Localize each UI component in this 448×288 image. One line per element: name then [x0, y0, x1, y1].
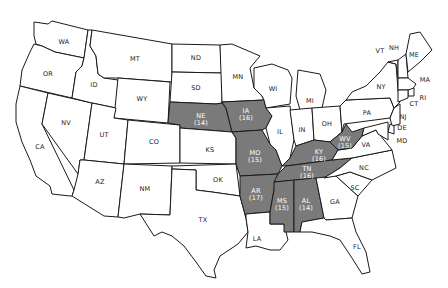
- state-code: NY: [376, 83, 385, 91]
- state-label-or: OR: [43, 71, 53, 78]
- state-label-mt: MT: [130, 56, 140, 63]
- state-label-md: MD: [396, 138, 407, 145]
- state-label-me: ME: [409, 52, 419, 59]
- state-code: MI: [306, 97, 314, 105]
- state-label-sc: SC: [350, 185, 359, 192]
- state-code: GA: [330, 198, 340, 206]
- state-label-tx: TX: [199, 217, 208, 224]
- state-label-id: ID: [90, 82, 97, 89]
- state-code: VA: [362, 141, 371, 149]
- state-label-nm: NM: [140, 186, 151, 193]
- state-code: NM: [140, 185, 151, 193]
- state-label-va: VA: [362, 142, 371, 149]
- state-code: NC: [359, 164, 369, 172]
- state-label-ia: IA(16): [239, 108, 253, 122]
- state-label-sd: SD: [191, 85, 201, 92]
- state-code: IN: [298, 126, 305, 134]
- state-az: [72, 160, 124, 217]
- state-label-ca: CA: [35, 144, 44, 151]
- state-label-ut: UT: [99, 132, 108, 139]
- state-code: SC: [350, 184, 359, 192]
- state-value: (17): [249, 195, 263, 202]
- state-code: AZ: [95, 178, 104, 186]
- state-value: (16): [300, 173, 314, 180]
- state-code: MT: [130, 55, 140, 63]
- state-code: CA: [35, 143, 44, 151]
- state-label-ms: MS(15): [275, 198, 289, 212]
- state-value: (16): [312, 156, 326, 163]
- state-code: DE: [397, 124, 407, 132]
- state-label-wa: WA: [59, 39, 70, 46]
- state-code: KS: [206, 146, 215, 154]
- state-code: PA: [363, 109, 371, 117]
- state-code: ME: [409, 51, 419, 59]
- state-code: OH: [322, 120, 332, 128]
- state-label-oh: OH: [322, 121, 332, 128]
- state-code: MA: [420, 76, 430, 84]
- state-code: RI: [420, 94, 427, 102]
- state-ri: [408, 88, 414, 96]
- state-code: ND: [191, 54, 201, 62]
- state-code: TX: [199, 216, 208, 224]
- state-label-nc: NC: [359, 165, 369, 172]
- state-label-wy: WY: [137, 96, 148, 103]
- state-label-co: CO: [149, 139, 159, 146]
- state-label-ri: RI: [420, 95, 427, 102]
- state-label-il: IL: [277, 129, 283, 136]
- state-code: NJ: [399, 113, 406, 121]
- state-label-nh: NH: [389, 45, 399, 52]
- state-code: WA: [59, 38, 70, 46]
- state-code: LA: [253, 235, 262, 243]
- state-code: NH: [389, 44, 399, 52]
- state-label-de: DE: [397, 125, 407, 132]
- state-label-la: LA: [253, 236, 262, 243]
- state-label-nd: ND: [191, 55, 201, 62]
- state-code: WI: [269, 85, 278, 93]
- state-label-al: AL(14): [299, 198, 313, 212]
- state-label-ks: KS: [206, 147, 215, 154]
- state-code: WY: [137, 95, 148, 103]
- state-value: (14): [194, 120, 208, 127]
- state-label-in: IN: [298, 127, 305, 134]
- state-label-mn: MN: [233, 74, 244, 81]
- state-label-nv: NV: [61, 120, 71, 127]
- state-label-mo: MO(15): [248, 150, 262, 164]
- state-label-ct: CT: [410, 101, 419, 108]
- state-code: IL: [277, 128, 283, 136]
- state-code: CT: [410, 100, 419, 108]
- state-code: SD: [191, 84, 201, 92]
- state-value: (16): [239, 115, 253, 122]
- state-label-ar: AR(17): [249, 188, 263, 202]
- state-code: OR: [43, 70, 53, 78]
- state-value: (15): [338, 143, 352, 150]
- state-code: MD: [396, 137, 407, 145]
- state-code: OK: [213, 176, 223, 184]
- state-label-az: AZ: [95, 179, 104, 186]
- state-label-ne: NE(14): [194, 113, 208, 127]
- state-label-fl: FL: [353, 244, 361, 251]
- state-label-nj: NJ: [399, 114, 406, 121]
- state-value: (14): [299, 205, 313, 212]
- state-de: [388, 124, 394, 134]
- state-code: NV: [61, 119, 71, 127]
- state-code: CO: [149, 138, 159, 146]
- state-label-vt: VT: [376, 48, 385, 55]
- state-label-ma: MA: [420, 77, 430, 84]
- state-label-mi: MI: [306, 98, 314, 105]
- state-code: ID: [90, 81, 97, 89]
- state-label-ny: NY: [376, 84, 385, 91]
- state-code: FL: [353, 243, 361, 251]
- state-label-ok: OK: [213, 177, 223, 184]
- state-label-wi: WI: [269, 86, 278, 93]
- state-code: UT: [99, 131, 108, 139]
- state-label-pa: PA: [363, 110, 371, 117]
- state-label-ga: GA: [330, 199, 340, 206]
- state-label-tn: TN(16): [300, 166, 314, 180]
- state-code: VT: [376, 47, 385, 55]
- state-ct: [398, 90, 408, 102]
- state-value: (15): [275, 205, 289, 212]
- state-label-wv: WV(15): [338, 136, 352, 150]
- state-code: MN: [233, 73, 244, 81]
- state-label-ky: KY(16): [312, 149, 326, 163]
- state-value: (15): [248, 157, 262, 164]
